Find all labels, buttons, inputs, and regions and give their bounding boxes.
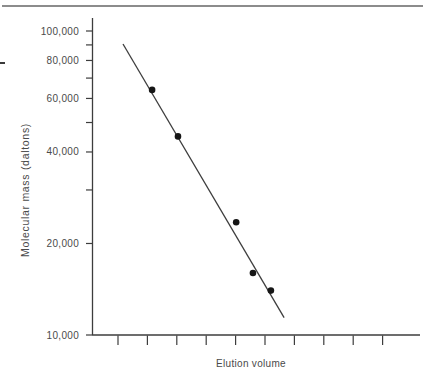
y-tick-label: 40,000: [47, 146, 80, 157]
figure-page: 10,00020,00040,00060,00080,000100,000 Mo…: [0, 0, 442, 390]
data-point: [250, 270, 257, 277]
fit-line: [123, 44, 284, 318]
data-point: [268, 287, 275, 294]
x-axis-label: Elution volume: [216, 358, 286, 369]
y-axis-label: Molecular mass (daltons): [19, 123, 31, 257]
data-point: [175, 133, 182, 140]
y-tick-label: 100,000: [41, 26, 79, 37]
y-tick-label: 20,000: [47, 238, 80, 249]
y-tick-label: 10,000: [47, 330, 80, 341]
data-point: [233, 219, 240, 226]
y-tick-label: 60,000: [47, 93, 80, 104]
data-point: [149, 87, 156, 94]
y-tick-label: 80,000: [47, 55, 80, 66]
chart-canvas: 10,00020,00040,00060,00080,000100,000: [0, 0, 442, 390]
elution-volume-chart: 10,00020,00040,00060,00080,000100,000 Mo…: [0, 0, 442, 390]
